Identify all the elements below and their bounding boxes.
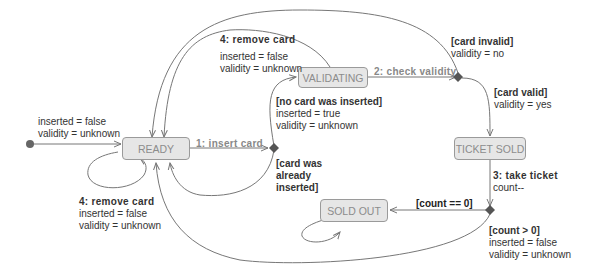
state-sold-out-label: SOLD OUT [327, 205, 381, 217]
count-zero-label: [count == 0] [416, 198, 473, 210]
initial-transition-label: inserted = false validity = unknown [38, 116, 120, 140]
count-positive-label: [count > 0] inserted = false validity = … [489, 225, 571, 261]
card-already-inserted-label: [card was already inserted] [276, 158, 322, 194]
state-validating[interactable]: VALIDATING [298, 67, 368, 88]
state-sold-out[interactable]: SOLD OUT [320, 199, 388, 222]
remove-card-top-label: 4: remove card inserted = false validity… [220, 34, 302, 75]
state-ticket-sold-label: TICKET SOLD [456, 143, 525, 155]
state-ticket-sold[interactable]: TICKET SOLD [454, 137, 526, 160]
initial-node-icon [26, 140, 34, 148]
take-ticket-label: 3: take ticket count-- [493, 170, 558, 194]
insert-card-event: 1: insert card [196, 138, 263, 150]
decision-diamond-icon [269, 143, 279, 153]
state-validating-label: VALIDATING [303, 72, 364, 84]
no-card-inserted-label: [no card was inserted] inserted = true v… [276, 96, 382, 132]
state-ready-label: READY [138, 143, 174, 155]
check-validity-event: 2: check validity [374, 66, 456, 78]
remove-card-self-label: 4: remove card inserted = false validity… [79, 196, 161, 232]
decision-diamond-icon [485, 205, 495, 215]
card-invalid-label: [card invalid] validity = no [451, 36, 513, 60]
card-valid-label: [card valid] validity = yes [494, 87, 552, 111]
state-ready[interactable]: READY [122, 137, 190, 160]
